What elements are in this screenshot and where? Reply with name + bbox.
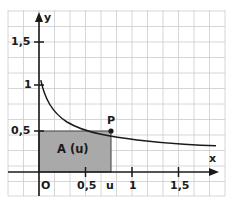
plot-canvas <box>0 0 231 206</box>
point-p-marker <box>108 128 113 133</box>
y-tick-label-1-5: 1,5 <box>11 36 31 47</box>
x-axis-label: x <box>209 153 216 164</box>
x-tick-label-0-5: 0,5 <box>77 180 97 191</box>
y-tick-label-0-5: 0,5 <box>11 125 31 136</box>
origin-label: O <box>41 180 50 191</box>
point-p-label: P <box>107 115 115 126</box>
function-plot-figure: 1,5 1 0,5 0,5 1 1,5 u O y x P A (u) <box>0 0 231 206</box>
y-tick-label-1: 1 <box>24 79 32 90</box>
x-tick-label-u: u <box>106 180 114 191</box>
y-axis-label: y <box>44 12 51 23</box>
x-tick-label-1: 1 <box>129 180 137 191</box>
area-label: A (u) <box>57 144 89 156</box>
x-tick-label-1-5: 1,5 <box>170 180 190 191</box>
